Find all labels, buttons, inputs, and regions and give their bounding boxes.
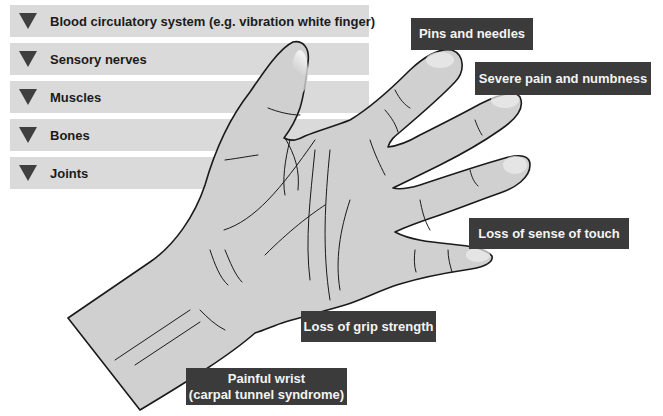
label-pins-and-needles: Pins and needles: [411, 18, 533, 50]
label-painful-wrist-line1: Painful wrist: [228, 371, 305, 387]
label-loss-of-touch: Loss of sense of touch: [469, 218, 629, 249]
label-painful-wrist-line2: (carpal tunnel syndrome): [189, 387, 344, 403]
label-severe-pain-numbness: Severe pain and numbness: [475, 62, 651, 95]
label-painful-wrist: Painful wrist (carpal tunnel syndrome): [186, 368, 347, 405]
label-loss-of-grip: Loss of grip strength: [301, 311, 436, 342]
